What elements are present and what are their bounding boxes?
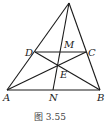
- label-e: E: [59, 69, 68, 80]
- label-n: N: [48, 92, 59, 103]
- label-b: B: [96, 92, 104, 103]
- triangle-edges: [7, 3, 100, 90]
- label-d: D: [24, 47, 33, 58]
- label-a: A: [2, 92, 10, 103]
- label-c: C: [88, 47, 96, 58]
- segment-a-c: [7, 52, 86, 90]
- inner-segments: [7, 3, 100, 90]
- geometry-figure: D M C E A N B 图 3.55: [0, 0, 108, 125]
- figure-caption: 图 3.55: [34, 112, 66, 122]
- label-m: M: [63, 39, 75, 50]
